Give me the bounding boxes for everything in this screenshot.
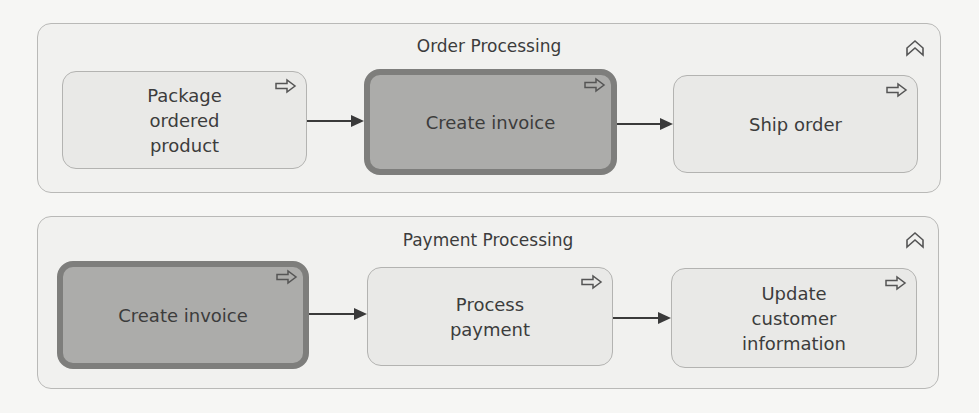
activity-label: Create invoice (408, 110, 574, 135)
activity-update-customer-information[interactable]: Update customer information (671, 268, 917, 368)
activity-label: Package ordered product (129, 83, 240, 158)
flow-arrow-icon (580, 274, 604, 290)
activity-ship-order[interactable]: Ship order (673, 75, 918, 173)
flow-arrow-icon (275, 269, 299, 285)
activity-create-invoice[interactable]: Create invoice (364, 69, 617, 175)
flow-arrow-icon (885, 82, 909, 98)
connector-arrow (613, 311, 672, 325)
activity-create-invoice[interactable]: Create invoice (57, 261, 309, 369)
activity-package-ordered-product[interactable]: Package ordered product (62, 71, 307, 169)
flow-arrow-icon (274, 78, 298, 94)
connector-arrow (309, 307, 368, 321)
activity-label: Update customer information (724, 281, 864, 356)
flow-arrow-icon (583, 77, 607, 93)
double-chevron-up-icon[interactable] (904, 228, 926, 250)
flow-arrow-icon (884, 275, 908, 291)
activity-label: Create invoice (100, 303, 266, 328)
group-title: Order Processing (38, 36, 940, 56)
group-title: Payment Processing (38, 230, 938, 250)
activity-label: Process payment (432, 292, 548, 342)
connector-arrow (307, 114, 365, 128)
double-chevron-up-icon[interactable] (904, 36, 926, 58)
activity-label: Ship order (731, 112, 860, 137)
connector-arrow (617, 117, 674, 131)
activity-process-payment[interactable]: Process payment (367, 267, 613, 366)
